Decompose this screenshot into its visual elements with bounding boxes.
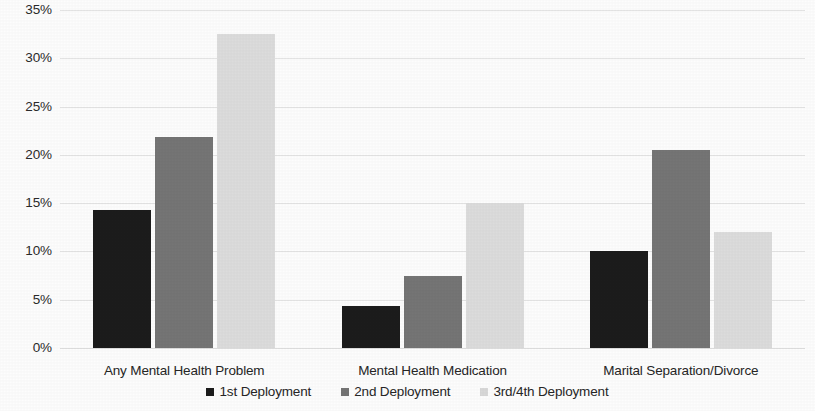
- bar: [652, 150, 710, 348]
- gridline: [60, 10, 805, 11]
- bar-chart: 35%30%25%20%15%10%5%0% Any Mental Health…: [0, 0, 815, 411]
- bar: [466, 203, 524, 348]
- x-axis-category-label: Mental Health Medication: [308, 363, 556, 378]
- chart-legend: 1st Deployment2nd Deployment3rd/4th Depl…: [0, 385, 815, 399]
- plot-area: Any Mental Health ProblemMental Health M…: [60, 10, 805, 348]
- bar: [217, 34, 275, 348]
- y-axis-tick-label: 10%: [6, 244, 52, 258]
- y-axis-tick-label: 30%: [6, 51, 52, 65]
- legend-item[interactable]: 3rd/4th Deployment: [480, 385, 608, 399]
- legend-item[interactable]: 2nd Deployment: [341, 385, 450, 399]
- bar: [155, 137, 213, 348]
- gridline: [60, 107, 805, 108]
- y-axis-tick-label: 35%: [6, 3, 52, 17]
- legend-item[interactable]: 1st Deployment: [206, 385, 311, 399]
- y-axis-tick-label: 20%: [6, 148, 52, 162]
- y-axis-tick-label: 25%: [6, 100, 52, 114]
- legend-swatch-icon: [480, 388, 488, 396]
- bar: [404, 276, 462, 348]
- y-axis: 35%30%25%20%15%10%5%0%: [0, 0, 52, 360]
- legend-swatch-icon: [341, 388, 349, 396]
- gridline: [60, 348, 805, 349]
- legend-label: 2nd Deployment: [354, 385, 450, 399]
- x-axis-category-label: Marital Separation/Divorce: [557, 363, 805, 378]
- legend-swatch-icon: [206, 388, 214, 396]
- y-axis-tick-label: 15%: [6, 196, 52, 210]
- x-axis-category-label: Any Mental Health Problem: [60, 363, 308, 378]
- bar: [590, 251, 648, 348]
- bar: [93, 210, 151, 348]
- legend-label: 3rd/4th Deployment: [493, 385, 608, 399]
- y-axis-tick-label: 5%: [6, 293, 52, 307]
- y-axis-tick-label: 0%: [6, 341, 52, 355]
- legend-label: 1st Deployment: [219, 385, 311, 399]
- bar: [714, 232, 772, 348]
- bar: [342, 306, 400, 348]
- gridline: [60, 58, 805, 59]
